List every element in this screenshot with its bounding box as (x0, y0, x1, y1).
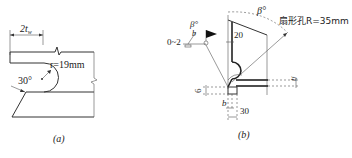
radius-label: r=19mm (50, 59, 85, 70)
dim-tf-label: tf (288, 75, 298, 81)
figure-b: β° 扇形孔R=35mm 20 tf 6 (167, 5, 349, 141)
scallop-outline (10, 52, 59, 92)
angle-label: 30° (18, 75, 32, 86)
field-weld-flag-icon (206, 30, 217, 38)
field-weld-circle-icon (204, 41, 208, 45)
weld-leader-line (206, 45, 228, 87)
figure-a: 2tw r=19mm 30° (a) (10, 23, 97, 145)
center-point (41, 78, 43, 80)
weld-beta-label: β° (189, 19, 198, 29)
scallop-label: 扇形孔R=35mm (279, 15, 349, 26)
arrow-icon (20, 89, 25, 92)
weld-b-label: b (192, 29, 196, 38)
caption-b: (b) (238, 129, 250, 141)
flange-bevel (228, 79, 232, 87)
dim-30-label: 30 (240, 106, 250, 116)
bevel-line (12, 92, 26, 117)
break-mark-icon (55, 47, 61, 55)
weld-access-hole-diagram: 2tw r=19mm 30° (a) β° 扇形孔R=35mm (0, 0, 352, 158)
arrow-icon (10, 34, 14, 37)
dim-20-label: 20 (234, 30, 244, 40)
weld-gap-label: 0~2 (167, 37, 181, 47)
caption-a: (a) (53, 133, 65, 145)
backing-bar (228, 87, 237, 94)
backing-symbol-icon (185, 45, 191, 47)
dim-6-label: 6 (193, 88, 203, 93)
beta-top-label: β° (256, 5, 266, 16)
scallop-arc (232, 62, 241, 79)
dim-label-2tw: 2tw (20, 23, 32, 35)
break-mark-icon (91, 78, 97, 84)
arrow-icon (39, 34, 43, 37)
dim-b-label: b (222, 98, 227, 108)
